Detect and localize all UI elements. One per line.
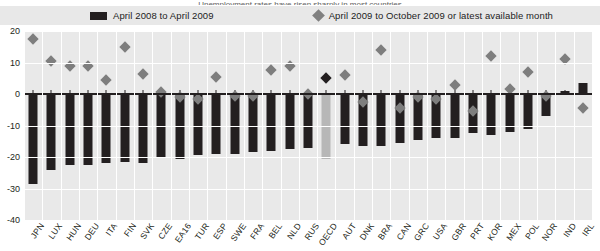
bar-nld[interactable]	[285, 94, 294, 149]
bar-rus[interactable]	[303, 94, 312, 148]
vertical-gridline	[171, 31, 172, 220]
legend-label-bars: April 2008 to April 2009	[113, 10, 214, 21]
bar-bra[interactable]	[377, 94, 386, 146]
diamond-fin[interactable]	[119, 41, 130, 52]
gridline	[24, 31, 592, 32]
vertical-gridline	[207, 31, 208, 220]
vertical-gridline	[317, 31, 318, 220]
y-tick-label: -40	[0, 215, 20, 225]
y-tick-label: 10	[0, 58, 20, 68]
x-tick-label-svk: SVK	[138, 221, 156, 241]
x-tick-label-pol: POL	[523, 221, 541, 241]
x-tick-label-bra: BRA	[376, 221, 395, 242]
x-tick-label-prt: PRT	[468, 221, 486, 241]
zero-axis-line	[24, 93, 592, 95]
x-tick-label-esp: ESP	[211, 221, 229, 241]
diamond-bra[interactable]	[376, 44, 387, 55]
y-tick-label: 0	[0, 89, 20, 99]
diamond-kor[interactable]	[486, 51, 497, 62]
x-tick-label-ea16: EA16	[172, 221, 193, 244]
bar-jpn[interactable]	[29, 94, 38, 184]
bar-svk[interactable]	[139, 94, 148, 163]
bar-deu[interactable]	[84, 94, 93, 165]
vertical-gridline	[24, 31, 25, 220]
diamond-aut[interactable]	[339, 69, 350, 80]
diamond-svk[interactable]	[137, 68, 148, 79]
y-tick-label: -20	[0, 152, 20, 162]
x-tick-label-mex: MEX	[504, 221, 523, 242]
x-tick-label-ita: ITA	[104, 221, 120, 238]
vertical-gridline	[464, 31, 465, 220]
bar-lux[interactable]	[47, 94, 56, 170]
legend-label-diamonds: April 2009 to October 2009 or latest ava…	[329, 10, 553, 21]
vertical-gridline	[262, 31, 263, 220]
x-tick-label-jpn: JPN	[29, 221, 47, 240]
chart-figure: Unemployment rates have risen sharply in…	[0, 0, 600, 251]
legend-item-diamonds: April 2009 to October 2009 or latest ava…	[314, 6, 553, 25]
diamond-marker-icon	[312, 9, 325, 22]
diamond-ita[interactable]	[101, 74, 112, 85]
vertical-gridline	[61, 31, 62, 220]
vertical-gridline	[500, 31, 501, 220]
gridline	[24, 157, 592, 158]
vertical-gridline	[134, 31, 135, 220]
x-tick-label-nor: NOR	[540, 221, 559, 243]
bar-fin[interactable]	[120, 94, 129, 162]
gridline	[24, 63, 592, 64]
bar-gbr[interactable]	[450, 94, 459, 138]
vertical-gridline	[537, 31, 538, 220]
figure-title-cropped: Unemployment rates have risen sharply in…	[0, 0, 600, 5]
vertical-gridline	[116, 31, 117, 220]
bar-kor[interactable]	[487, 94, 496, 135]
vertical-gridline	[281, 31, 282, 220]
x-tick-label-nld: NLD	[285, 221, 303, 241]
diamond-gbr[interactable]	[449, 79, 460, 90]
x-tick-label-irl: IRL	[580, 221, 596, 238]
x-tick-label-hun: HUN	[64, 221, 83, 242]
bar-swe[interactable]	[230, 94, 239, 154]
vertical-gridline	[189, 31, 190, 220]
bar-fra[interactable]	[249, 94, 258, 152]
bar-bel[interactable]	[267, 94, 276, 151]
x-tick-label-can: CAN	[394, 221, 413, 242]
vertical-gridline	[152, 31, 153, 220]
x-tick-label-lux: LUX	[47, 221, 65, 241]
diamond-oecd[interactable]	[321, 73, 332, 84]
x-tick-label-ind: IND	[561, 221, 578, 239]
bar-esp[interactable]	[212, 94, 221, 154]
x-tick-label-tur: TUR	[193, 221, 212, 242]
vertical-gridline	[226, 31, 227, 220]
vertical-gridline	[427, 31, 428, 220]
vertical-gridline	[244, 31, 245, 220]
x-tick-label-usa: USA	[431, 221, 450, 242]
diamond-jpn[interactable]	[27, 33, 38, 44]
y-tick-label: -10	[0, 121, 20, 131]
vertical-gridline	[519, 31, 520, 220]
y-tick-label: -30	[0, 184, 20, 194]
x-tick-label-deu: DEU	[82, 221, 101, 242]
x-tick-label-fra: FRA	[248, 221, 266, 241]
vertical-gridline	[335, 31, 336, 220]
diamond-bel[interactable]	[266, 65, 277, 76]
diamond-lux[interactable]	[46, 55, 57, 66]
x-tick-label-aut: AUT	[340, 221, 358, 241]
vertical-gridline	[299, 31, 300, 220]
legend-item-bars: April 2008 to April 2009	[90, 6, 214, 25]
diamond-esp[interactable]	[211, 71, 222, 82]
x-tick-label-dnk: DNK	[357, 221, 376, 242]
vertical-gridline	[79, 31, 80, 220]
x-tick-label-bel: BEL	[267, 221, 285, 240]
bar-aut[interactable]	[340, 94, 349, 144]
bar-swatch-icon	[90, 12, 107, 20]
vertical-gridline	[372, 31, 373, 220]
bar-ita[interactable]	[102, 94, 111, 163]
bar-pol[interactable]	[523, 94, 532, 129]
chart-legend: April 2008 to April 2009 April 2009 to O…	[0, 6, 600, 25]
plot-area	[24, 31, 592, 220]
vertical-gridline	[390, 31, 391, 220]
diamond-irl[interactable]	[577, 103, 588, 114]
diamond-pol[interactable]	[522, 66, 533, 77]
x-tick-label-gbr: GBR	[449, 221, 468, 242]
bar-hun[interactable]	[65, 94, 74, 165]
x-tick-label-kor: KOR	[485, 221, 504, 242]
